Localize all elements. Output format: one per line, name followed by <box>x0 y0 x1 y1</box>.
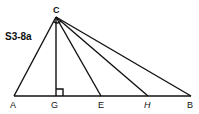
segment-ch <box>56 17 148 96</box>
angle-arc-c <box>54 21 62 23</box>
point-label-g: G <box>51 100 58 110</box>
segment-ce <box>56 17 101 96</box>
figure-label: S3-8a <box>5 31 32 42</box>
segment-cb <box>56 17 191 96</box>
right-angle-marker <box>56 89 63 96</box>
point-label-e: E <box>98 100 104 110</box>
point-label-a: A <box>10 100 16 110</box>
triangle-diagram: S3-8a C A G E H B <box>0 0 199 114</box>
point-label-b: B <box>187 100 193 110</box>
point-label-h: H <box>144 100 151 110</box>
segment-ca <box>14 17 56 96</box>
point-label-c: C <box>53 5 60 15</box>
